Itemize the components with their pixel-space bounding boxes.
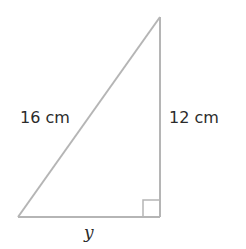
right-angle-marker xyxy=(143,200,160,217)
right-triangle-diagram: 16 cm 12 cm y xyxy=(0,0,246,249)
horizontal-leg-label: y xyxy=(83,222,94,242)
vertical-leg-label: 12 cm xyxy=(169,108,219,127)
hypotenuse-label: 16 cm xyxy=(20,108,70,127)
